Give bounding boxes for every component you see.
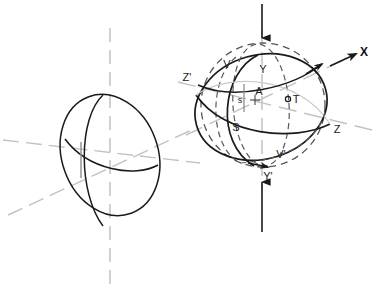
label-x-axis: X	[360, 45, 368, 59]
diagram-canvas: X Z' Z V Y A s T S V' Y'	[0, 0, 383, 302]
label-y-prime: Y'	[263, 170, 272, 182]
label-z: Z	[334, 123, 341, 135]
label-y: Y	[259, 63, 267, 75]
background	[0, 0, 383, 302]
label-z-prime: Z'	[183, 71, 192, 83]
label-t: T	[293, 93, 300, 105]
technical-diagram-svg: X Z' Z V Y A s T S V' Y'	[0, 0, 383, 302]
label-s-upper: S	[232, 121, 239, 133]
label-v-prime: V'	[276, 148, 285, 160]
label-a: A	[255, 85, 263, 97]
label-s-lower: s	[238, 95, 243, 105]
label-v: V	[223, 58, 231, 70]
